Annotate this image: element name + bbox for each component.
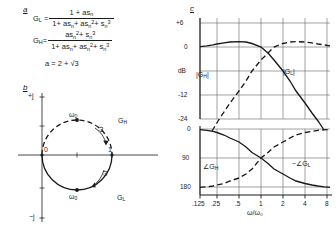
magnitude-ytick-0: 0 [184, 43, 188, 50]
magnitude-grid [200, 18, 330, 119]
phase-label-gl: −∠GL [292, 160, 311, 168]
magnitude-curve-gl [200, 42, 324, 130]
magnitude-ytick-6: +6 [176, 19, 183, 26]
phase-curve-gh [200, 130, 330, 188]
phase-xtick-1: 1 [259, 200, 263, 207]
magnitude-ytick-minus12: -12 [178, 91, 187, 98]
phase-xaxis-label: ω/ω₀ [247, 209, 263, 216]
magnitude-ytick-minus24: -24 [178, 115, 187, 122]
phase-xtick-025: .25 [211, 200, 220, 207]
phase-xtick-05: .5 [235, 200, 240, 207]
magnitude-label-gh: |GH| [196, 71, 209, 79]
phase-ytick-90: 90 [182, 154, 189, 161]
phase-xtick-2: 2 [281, 200, 285, 207]
phase-plot-group [200, 126, 332, 199]
magnitude-label-gl: |GL| [283, 68, 295, 76]
figure-root: a GL =1 + asn1+ asn+ asn2+ sn3 GH=asn2+ … [0, 0, 336, 236]
phase-ytick-0: 0 [187, 125, 191, 132]
phase-xtick-4: 4 [303, 200, 307, 207]
phase-ytick-180: 180 [180, 183, 191, 190]
phase-xtick-8: 8 [325, 200, 329, 207]
magnitude-unit-db: dB [178, 67, 186, 74]
bode-plots-svg [0, 0, 336, 236]
magnitude-curve-gh [212, 42, 330, 131]
magnitude-plot-group [200, 18, 330, 131]
phase-xtick-0125: .125 [192, 200, 205, 207]
phase-curve-gl [200, 130, 330, 188]
phase-label-gh: ∠GH [203, 163, 218, 171]
